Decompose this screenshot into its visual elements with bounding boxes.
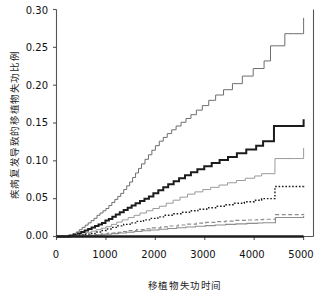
curve-1-gray-top [57, 18, 304, 237]
curve-4-black-dotted [57, 185, 304, 236]
axis-ticks [53, 10, 304, 241]
plot-area [0, 0, 326, 300]
series-lines [57, 18, 304, 237]
axis-frame [57, 10, 314, 237]
chart-container: 疾病复发导致的移植物失功比例 0.30 0.25 0.20 0.15 0.10 … [0, 0, 326, 300]
curve-5-gray-dashed [57, 214, 304, 237]
